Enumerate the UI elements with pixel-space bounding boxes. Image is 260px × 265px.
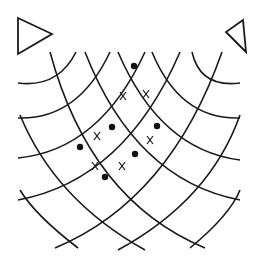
cross-marks <box>92 90 153 170</box>
antinode-dot <box>77 144 83 150</box>
antinode-dot <box>154 123 160 129</box>
antinode-dot <box>131 63 137 69</box>
antinode-points <box>77 63 160 180</box>
right-wavefront-4 <box>50 52 205 248</box>
wave-sources <box>18 18 246 54</box>
diagram-canvas <box>0 0 260 265</box>
left-wavefront-1 <box>18 52 110 118</box>
antinode-dot <box>109 124 115 130</box>
antinode-dot <box>132 151 138 157</box>
left-source-triangle-icon <box>18 18 52 54</box>
antinode-dot <box>102 174 108 180</box>
left-wavefront-0 <box>18 52 76 84</box>
right-wavefront-6 <box>20 190 78 248</box>
right-source-triangle-icon <box>226 20 246 52</box>
interference-diagram <box>0 0 260 265</box>
